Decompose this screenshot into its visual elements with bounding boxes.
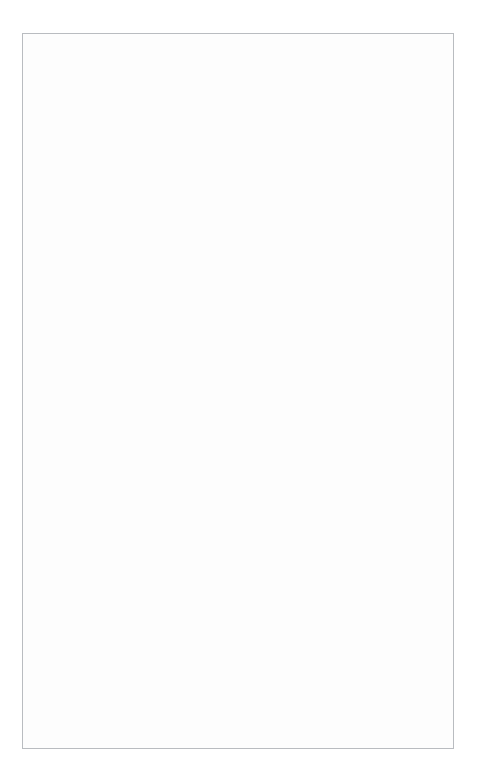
worksheet-page bbox=[22, 33, 454, 749]
